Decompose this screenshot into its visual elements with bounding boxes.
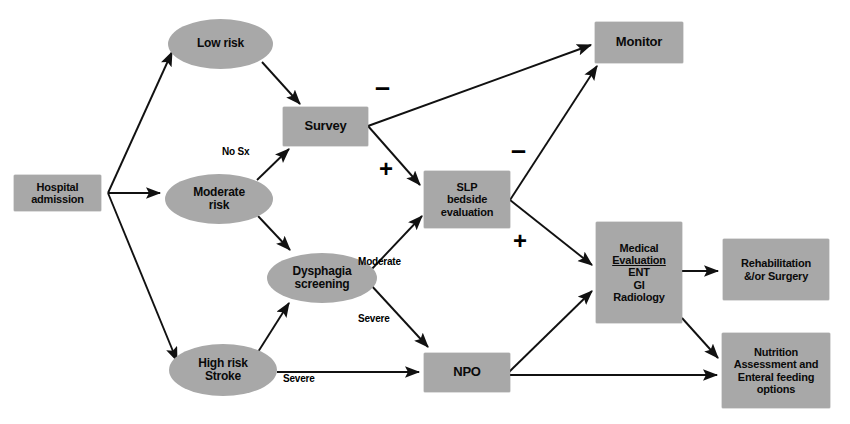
node-label-line: options — [734, 383, 819, 395]
node-hospital-admission[interactable]: Hospitaladmission — [14, 175, 101, 211]
node-label: Low risk — [197, 37, 244, 50]
sign-slp-to-monitor-negative: – — [511, 137, 526, 164]
edge-label-severe-stroke: Severe — [283, 373, 315, 384]
node-slp-bedside-evaluation[interactable]: SLPbedsideevaluation — [424, 171, 510, 228]
node-moderate-risk[interactable]: Moderaterisk — [165, 174, 273, 224]
node-label-line: risk — [193, 199, 245, 212]
node-label: NPO — [453, 365, 481, 380]
node-label-line: Enteral feeding — [734, 371, 819, 383]
node-label-line: bedside — [441, 193, 493, 205]
node-label-line: Medical — [612, 242, 666, 254]
node-label-line: Monitor — [616, 35, 662, 50]
node-label: SLPbedsideevaluation — [441, 181, 493, 218]
node-medical-evaluation[interactable]: MedicalEvaluationENTGIRadiology — [596, 222, 682, 323]
node-nutrition-assessment[interactable]: NutritionAssessment andEnteral feedingop… — [722, 333, 830, 408]
node-label-line: Moderate — [193, 186, 245, 199]
flowchart-canvas: HospitaladmissionLow riskModerateriskDys… — [0, 0, 850, 424]
node-label-line: High risk — [198, 357, 248, 370]
node-npo[interactable]: NPO — [424, 353, 510, 392]
node-label-line: SLP — [441, 181, 493, 193]
node-label-line: Rehabilitation — [741, 257, 811, 269]
node-label-line: Assessment and — [734, 358, 819, 370]
node-label-line: Evaluation — [612, 254, 666, 266]
edge-label-no-sx: No Sx — [222, 146, 249, 157]
node-label-line: admission — [31, 193, 84, 205]
sign-survey-to-slp-positive: + — [379, 157, 393, 181]
node-label: Monitor — [616, 35, 662, 50]
node-label-line: GI — [612, 279, 666, 291]
node-label: Rehabilitation&/or Surgery — [741, 257, 811, 282]
node-label-line: ENT — [612, 266, 666, 278]
node-label: NutritionAssessment andEnteral feedingop… — [734, 346, 819, 395]
node-label-line: NPO — [453, 365, 481, 380]
node-monitor[interactable]: Monitor — [595, 22, 683, 63]
node-label-line: Radiology — [612, 291, 666, 303]
node-label-line: screening — [293, 278, 352, 291]
edge-npo-to-medical — [509, 291, 592, 372]
edge-hospital-to-low-risk — [108, 52, 172, 193]
sign-slp-to-medical-positive: + — [513, 229, 527, 253]
node-label: High riskStroke — [198, 357, 248, 384]
edge-label-severe-dysphagia: Severe — [358, 313, 390, 324]
edge-moderate-risk-to-dysphagia — [258, 216, 290, 250]
edge-moderate-risk-to-survey — [257, 149, 289, 180]
node-label-line: Dysphagia — [293, 265, 352, 278]
node-rehabilitation-surgery[interactable]: Rehabilitation&/or Surgery — [723, 239, 829, 300]
edge-low-risk-to-survey — [262, 62, 300, 104]
node-label-line: Survey — [304, 119, 346, 134]
edge-high-risk-to-dysphagia — [258, 303, 289, 352]
node-label-line: evaluation — [441, 206, 493, 218]
node-label: Survey — [304, 119, 346, 134]
edge-slp-to-monitor — [510, 66, 597, 200]
node-label-line: Stroke — [198, 370, 248, 383]
edge-medical-to-nutrition — [682, 318, 718, 358]
node-label-line: Low risk — [197, 37, 244, 50]
edge-survey-to-monitor — [368, 45, 591, 126]
node-label: Dysphagiascreening — [293, 265, 352, 292]
sign-survey-to-monitor-negative: – — [375, 74, 390, 101]
node-high-risk-stroke[interactable]: High riskStroke — [169, 344, 277, 396]
node-label: MedicalEvaluationENTGIRadiology — [612, 242, 666, 304]
node-survey[interactable]: Survey — [283, 107, 368, 146]
edge-hospital-to-high-risk — [108, 193, 177, 361]
node-label: Hospitaladmission — [31, 181, 84, 206]
node-label: Moderaterisk — [193, 186, 245, 213]
node-label-line: &/or Surgery — [741, 270, 811, 282]
node-low-risk[interactable]: Low risk — [168, 19, 273, 69]
node-label-line: Nutrition — [734, 346, 819, 358]
edge-label-moderate: Moderate — [358, 256, 401, 267]
node-label-line: Hospital — [31, 181, 84, 193]
edge-survey-to-slp — [368, 126, 420, 185]
